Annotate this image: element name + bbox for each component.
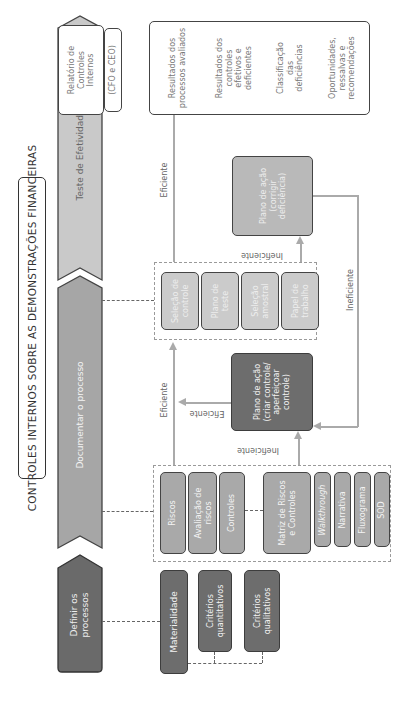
phase-document-process: Documentar o processo xyxy=(58,290,102,540)
flow-label-inefficient-1: Ineficiente xyxy=(228,445,288,455)
risk-assessment-box: Avaliação de riscos xyxy=(188,472,217,554)
sod-box: SOD xyxy=(374,472,390,547)
flow-label-inefficient-3: Ineficiente xyxy=(344,250,358,330)
flow-label-efficient-1: Eficiente xyxy=(158,360,172,440)
flow-label-efficient-3: Eficiente xyxy=(158,140,172,220)
materiality-box: Materialidade xyxy=(160,570,188,674)
narrative-box: Narrativa xyxy=(334,472,351,547)
flow-label-efficient-2: Eficiente xyxy=(182,408,232,418)
report-box: Relatório de Controles Internos xyxy=(58,25,104,115)
walkthrough-box: Walkthrough xyxy=(314,472,331,547)
action-plan-fix-box: Plano de ação (corrigir deficiência) xyxy=(232,156,313,236)
flowchart-box: Fluxograma xyxy=(354,472,371,547)
flow-label-inefficient-2: Ineficiente xyxy=(232,250,292,260)
test-plan-box: Plano de teste xyxy=(201,272,239,330)
risks-box: Riscos xyxy=(160,472,186,554)
phase-define-processes: Definir os processos xyxy=(58,560,102,670)
sample-selection-box: Seleção amostral xyxy=(241,272,279,330)
outcome-item: Oportunidades, ressalvas e recomendações xyxy=(316,24,368,112)
outcomes-box: Resultados dos processos avaliados Resul… xyxy=(149,21,370,115)
diagram-title: CONTROLES INTERNOS SOBRE AS DEMONSTRAÇÕE… xyxy=(18,177,46,479)
risk-control-matrix-box: Matriz de Riscos e Controles xyxy=(263,472,311,554)
report-signers-box: (CFO e CEO) xyxy=(104,28,122,112)
quantitative-criteria-box: Critérios quantitativos xyxy=(198,570,232,652)
controls-box: Controles xyxy=(219,472,245,554)
qualitative-criteria-box: Critérios qualitativos xyxy=(244,570,280,652)
control-selection-box: Seleção de controle xyxy=(161,272,199,330)
outcome-item: Resultados dos processos avaliados xyxy=(152,24,202,112)
workpaper-box: Papel de trabalho xyxy=(281,272,319,330)
action-plan-create-box: Plano de ação (criar controle/ aperfeiço… xyxy=(231,353,313,431)
outcome-item: Classificação das deficiências xyxy=(266,24,314,112)
outcome-item: Resultados dos controles efetivos e defi… xyxy=(204,24,264,112)
